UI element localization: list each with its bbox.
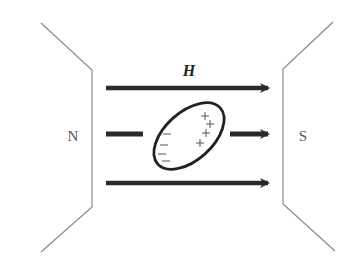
- magnet-field-diagram: N S H: [0, 0, 359, 265]
- south-pole-outline: [283, 22, 335, 251]
- polarized-ellipsoid: [142, 90, 237, 182]
- north-pole-label: N: [68, 128, 79, 144]
- north-pole-outline: [41, 23, 92, 252]
- south-pole-label: S: [299, 128, 307, 144]
- field-label-h: H: [182, 62, 196, 79]
